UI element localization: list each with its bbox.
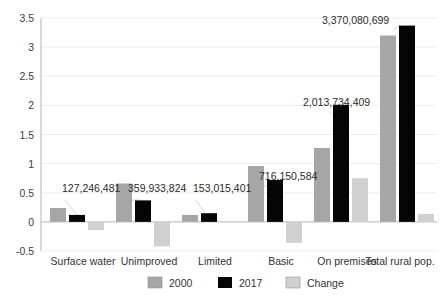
bar-change (154, 222, 170, 247)
bar-2000 (182, 215, 198, 222)
bar-2000 (380, 36, 396, 222)
y-tick-label: 1 (28, 158, 34, 170)
x-tick-label: Total rural pop. (365, 255, 434, 267)
bar-2000 (314, 148, 330, 222)
bar-change (286, 222, 302, 243)
bar-2017 (399, 26, 415, 222)
y-tick-label: 2.5 (19, 70, 34, 82)
x-category-labels: Surface water Unimproved Limited Basic O… (51, 255, 435, 267)
chart-canvas: 3.5 3 2.5 2 1.5 1 0.5 0 -0.5 (0, 0, 440, 297)
leader-line (196, 200, 204, 212)
y-tick-labels: 3.5 3 2.5 2 1.5 1 0.5 0 -0.5 (16, 12, 34, 257)
data-label: 2,013,734,409 (303, 96, 370, 108)
y-tick-label: 3.5 (19, 12, 34, 24)
bar-2017 (69, 215, 85, 222)
data-label: 127,246,481 (62, 182, 121, 194)
data-label: 3,370,080,699 (322, 14, 389, 26)
legend-item-2000[interactable]: 2000 (148, 277, 193, 289)
x-tick-label: Surface water (51, 255, 116, 267)
bar-2017 (201, 213, 217, 222)
x-tick-label: Limited (198, 255, 232, 267)
bar-change (88, 222, 104, 230)
bar-change (418, 214, 434, 222)
x-tick-label: Basic (268, 255, 294, 267)
bar-group (50, 208, 104, 230)
bar-2000 (50, 208, 66, 222)
legend-item-change[interactable]: Change (286, 277, 344, 289)
y-tick-label: 0 (28, 216, 34, 228)
bar-group (182, 213, 236, 222)
y-tick-label: -0.5 (16, 245, 34, 257)
chart-legend: 2000 2017 Change (148, 277, 344, 289)
x-tick-label: Unimproved (121, 255, 178, 267)
bar-chart: 3.5 3 2.5 2 1.5 1 0.5 0 -0.5 (0, 0, 440, 297)
y-tick-label: 1.5 (19, 129, 34, 141)
legend-item-2017[interactable]: 2017 (218, 277, 263, 289)
legend-label-2000: 2000 (169, 277, 193, 289)
legend-label-2017: 2017 (239, 277, 263, 289)
y-tick-label: 2 (28, 99, 34, 111)
data-label: 153,015,401 (193, 182, 252, 194)
legend-swatch-2000 (148, 277, 162, 288)
legend-swatch-change (286, 277, 300, 288)
leader-line (393, 25, 400, 30)
leader-line (65, 200, 78, 216)
legend-swatch-2017 (218, 277, 232, 288)
bar-2017 (135, 200, 151, 222)
bar-change (220, 221, 236, 222)
y-tick-label: 3 (28, 41, 34, 53)
y-tick-label: 0.5 (19, 187, 34, 199)
legend-label-change: Change (307, 277, 344, 289)
data-label: 359,933,824 (128, 182, 187, 194)
bar-2017 (333, 105, 349, 222)
bar-change (352, 178, 368, 222)
gridlines (41, 18, 437, 251)
bar-2017 (267, 180, 283, 222)
data-label: 716,150,584 (259, 170, 318, 182)
